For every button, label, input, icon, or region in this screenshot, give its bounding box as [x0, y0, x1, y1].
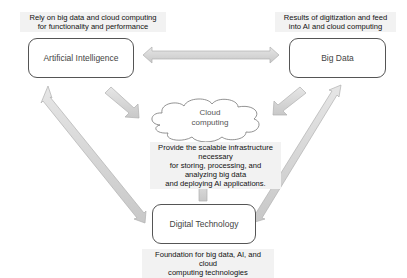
arrow-bigdata-to-cloud [273, 87, 306, 115]
node-digital-technology: Digital Technology [152, 204, 256, 244]
cloud-label: Cloud computing [180, 108, 240, 128]
bigdata-caption-line-2: into AI and cloud computing [278, 22, 393, 31]
node-artificial-intelligence: Artificial Intelligence [28, 38, 134, 78]
digitaltech-label: Digital Technology [170, 219, 239, 229]
digitaltech-caption-line-1: Foundation for big data, AI, and cloud [145, 250, 271, 268]
cloud-label-line-2: computing [180, 118, 240, 128]
node-big-data: Big Data [289, 38, 386, 78]
double-arrow-ai-bigdata [143, 47, 279, 63]
cloud-label-line-1: Cloud [180, 108, 240, 118]
cloud-caption-line-3: and deploying AI applications. [153, 179, 278, 188]
ai-caption-line-1: Rely on big data and cloud computing [23, 13, 163, 22]
cloud-caption-line-2: for storing, processing, and analyzing b… [153, 161, 278, 179]
ai-label: Artificial Intelligence [43, 53, 118, 63]
ai-caption: Rely on big data and cloud computing for… [20, 12, 166, 32]
bigdata-caption-line-1: Results of digitization and feed [278, 13, 393, 22]
digitaltech-caption-line-2: computing technologies [145, 268, 271, 277]
bigdata-caption: Results of digitization and feed into AI… [275, 12, 396, 32]
ai-caption-line-2: for functionality and performance [23, 22, 163, 31]
cloud-caption: Provide the scalable infrastructure nece… [150, 142, 281, 189]
arrow-ai-to-cloud [105, 87, 139, 118]
cloud-caption-line-1: Provide the scalable infrastructure nece… [153, 143, 278, 161]
bigdata-label: Big Data [321, 53, 354, 63]
digitaltech-caption: Foundation for big data, AI, and cloud c… [142, 249, 274, 278]
